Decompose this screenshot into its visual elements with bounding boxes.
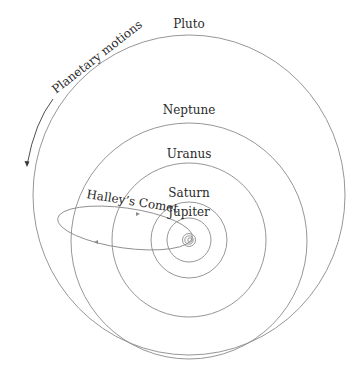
comet-direction-arrow-icon: [94, 240, 98, 244]
pluto-label: Pluto: [173, 17, 205, 31]
jupiter-orbit: [167, 218, 211, 262]
neptune-label: Neptune: [163, 103, 216, 117]
halley-comet-label: Halley’s Comet: [86, 187, 180, 215]
solar-system-diagram: Pluto Neptune Uranus Saturn Jupiter Hall…: [0, 0, 364, 375]
uranus-label: Uranus: [167, 147, 212, 161]
planetary-motions-label: Planetary motions: [49, 17, 145, 96]
planetary-motion-arrow: [27, 99, 53, 165]
comet-direction-arrow-icon: [136, 212, 140, 216]
saturn-label: Saturn: [168, 186, 210, 200]
arrowhead-icon: [25, 161, 30, 167]
